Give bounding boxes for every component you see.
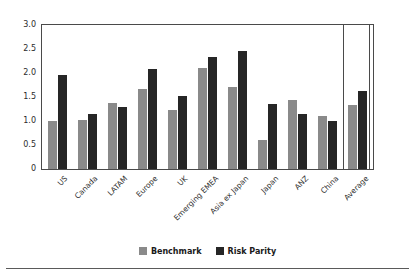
y-axis-tick-label: 1.0 [0, 117, 36, 125]
bar-group [138, 25, 157, 169]
y-axis-tick-label: 3.0 [0, 21, 36, 29]
bar-benchmark[interactable] [228, 87, 237, 169]
y-axis-tick-label: 2.5 [0, 45, 36, 53]
bar-risk-parity[interactable] [118, 107, 127, 169]
bar-group [348, 25, 367, 169]
bar-group [48, 25, 67, 169]
legend-swatch-icon [216, 247, 224, 255]
bar-group [108, 25, 127, 169]
bar-risk-parity[interactable] [88, 114, 97, 169]
average-group-separator [343, 25, 344, 169]
bar-risk-parity[interactable] [148, 69, 157, 169]
bar-risk-parity[interactable] [298, 114, 307, 169]
bar-group [228, 25, 247, 169]
chart-figure: 00.51.01.52.02.53.0 USCanadaLATAMEuropeU… [0, 0, 415, 278]
legend-label: Benchmark [151, 247, 202, 256]
bar-group [318, 25, 337, 169]
bar-risk-parity[interactable] [178, 96, 187, 169]
y-axis-tick-label: 2.0 [0, 69, 36, 77]
bar-risk-parity[interactable] [238, 51, 247, 169]
plot-area [42, 25, 373, 169]
bar-benchmark[interactable] [138, 89, 147, 169]
legend-item[interactable]: Risk Parity [216, 247, 277, 256]
footer-rule [6, 268, 409, 269]
bar-risk-parity[interactable] [58, 75, 67, 169]
bar-risk-parity[interactable] [268, 104, 277, 169]
x-axis-tick-labels: USCanadaLATAMEuropeUKEmerging EMEAAsia e… [0, 170, 415, 230]
bar-risk-parity[interactable] [358, 91, 367, 169]
bar-group [288, 25, 307, 169]
y-axis-tick-label: 1.5 [0, 93, 36, 101]
bar-benchmark[interactable] [348, 105, 357, 169]
bar-risk-parity[interactable] [328, 121, 337, 169]
bar-benchmark[interactable] [48, 121, 57, 169]
bar-group [258, 25, 277, 169]
legend-swatch-icon [139, 247, 147, 255]
bar-benchmark[interactable] [258, 140, 267, 169]
bar-benchmark[interactable] [318, 116, 327, 169]
bar-risk-parity[interactable] [208, 57, 217, 169]
bar-benchmark[interactable] [108, 103, 117, 169]
bar-benchmark[interactable] [168, 110, 177, 169]
legend-item[interactable]: Benchmark [139, 247, 202, 256]
bar-group [198, 25, 217, 169]
y-axis-tick-label: 0.5 [0, 141, 36, 149]
bar-benchmark[interactable] [198, 68, 207, 169]
bar-group [78, 25, 97, 169]
bar-group [168, 25, 187, 169]
bar-benchmark[interactable] [78, 120, 87, 169]
chart-legend: BenchmarkRisk Parity [0, 244, 415, 258]
average-group-separator [369, 25, 370, 169]
bar-benchmark[interactable] [288, 100, 297, 169]
legend-label: Risk Parity [228, 247, 277, 256]
